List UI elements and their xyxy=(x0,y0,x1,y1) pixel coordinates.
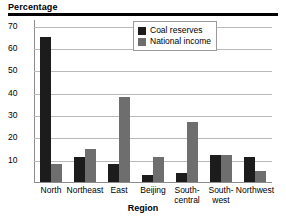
bar-national-income xyxy=(187,122,198,182)
y-axis-tick-label: 30 xyxy=(8,111,32,119)
x-axis-line xyxy=(34,182,272,183)
chart-legend: Coal reserves National income xyxy=(133,21,217,51)
x-axis-tick-label: Northwest xyxy=(232,186,278,196)
legend-label: National income xyxy=(150,37,211,46)
gridline xyxy=(34,138,272,139)
y-axis-tick-label: 20 xyxy=(8,133,32,141)
y-axis-title: Percentage xyxy=(8,2,58,12)
bar-group xyxy=(68,149,102,182)
y-axis-tick-label: 40 xyxy=(8,89,32,97)
legend-swatch-icon xyxy=(138,27,146,35)
bar-coal-reserves xyxy=(142,175,153,182)
bar-coal-reserves xyxy=(244,157,255,182)
y-axis-tick-label: 70 xyxy=(8,22,32,30)
legend-label: Coal reserves xyxy=(150,26,202,35)
legend-item-coal-reserves: Coal reserves xyxy=(138,25,211,36)
bar-coal-reserves xyxy=(74,157,85,182)
bar-group xyxy=(34,37,68,182)
header-rule xyxy=(8,13,278,16)
bar-coal-reserves xyxy=(210,155,221,182)
bar-group xyxy=(238,157,272,182)
bar-national-income xyxy=(255,171,266,182)
y-axis-tick-label: 50 xyxy=(8,66,32,74)
gridline xyxy=(34,71,272,72)
bar-national-income xyxy=(51,164,62,182)
bar-group xyxy=(136,157,170,182)
legend-item-national-income: National income xyxy=(138,36,211,47)
bar-group xyxy=(170,122,204,182)
legend-swatch-icon xyxy=(138,38,146,46)
bar-coal-reserves xyxy=(40,37,51,182)
bar-group xyxy=(102,97,136,182)
bar-national-income xyxy=(153,157,164,182)
gridline xyxy=(34,94,272,95)
gridline xyxy=(34,116,272,117)
bar-national-income xyxy=(221,155,232,182)
bar-national-income xyxy=(85,149,96,182)
bar-chart: Percentage Region Coal reserves National… xyxy=(0,0,286,221)
bar-group xyxy=(204,155,238,182)
bar-coal-reserves xyxy=(176,173,187,182)
y-axis-tick-label: 10 xyxy=(8,156,32,164)
bar-national-income xyxy=(119,97,130,182)
bar-coal-reserves xyxy=(108,164,119,182)
y-axis-tick-label: 60 xyxy=(8,44,32,52)
